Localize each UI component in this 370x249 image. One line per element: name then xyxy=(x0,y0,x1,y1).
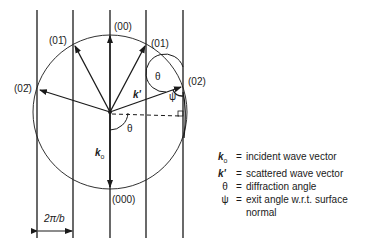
label-00: (00) xyxy=(114,22,132,32)
label-theta-02: θ xyxy=(155,72,161,82)
legend-text: scattered wave vector xyxy=(246,167,343,180)
legend-equals: = xyxy=(232,150,246,163)
theta-arc-02 xyxy=(146,54,183,92)
legend-symbol: ko xyxy=(218,150,232,167)
k0-subscript: o xyxy=(101,153,105,160)
legend-row-psi: ψ = exit angle w.r.t. surface xyxy=(218,193,348,206)
label-theta-center: θ xyxy=(127,124,133,134)
label-k-prime: k' xyxy=(133,90,141,100)
label-02bar: (02̄) xyxy=(14,84,32,94)
label-spacing: 2π/b xyxy=(44,214,65,224)
legend-text-continuation: normal xyxy=(218,206,348,219)
label-000: (000) xyxy=(112,195,135,205)
legend-symbol: θ xyxy=(218,180,232,193)
legend-equals: = xyxy=(232,193,246,206)
legend-equals: = xyxy=(232,180,246,193)
label-01bar: (01̄) xyxy=(49,36,67,46)
legend-text: exit angle w.r.t. surface xyxy=(246,193,348,206)
theta-arc-center xyxy=(110,113,128,130)
legend-symbol: k' xyxy=(218,167,232,180)
legend-text: incident wave vector xyxy=(246,150,337,163)
legend-row-kprime: k' = scattered wave vector xyxy=(218,167,348,180)
label-k0: ko xyxy=(95,148,104,162)
legend-symbol: ψ xyxy=(218,193,232,206)
origin-point xyxy=(108,110,112,114)
legend: ko = incident wave vector k' = scattered… xyxy=(218,150,348,219)
label-02: (02) xyxy=(188,77,206,87)
legend-text: diffraction angle xyxy=(246,180,316,193)
label-psi: ψ xyxy=(169,92,176,102)
right-angle-mark xyxy=(178,111,183,116)
legend-equals: = xyxy=(232,167,246,180)
legend-row-k0: ko = incident wave vector xyxy=(218,150,348,167)
label-01: (01) xyxy=(151,39,169,49)
legend-row-theta: θ = diffraction angle xyxy=(218,180,348,193)
